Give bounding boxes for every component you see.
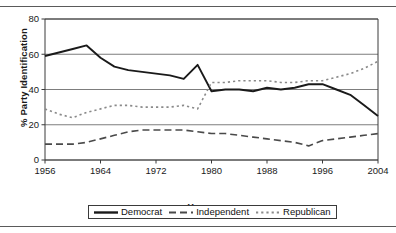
legend-item-democrat[interactable]: Democrat	[94, 207, 162, 217]
svg-text:1956: 1956	[34, 165, 55, 176]
legend-label-independent: Independent	[196, 207, 249, 217]
svg-text:1972: 1972	[145, 165, 166, 176]
legend-swatch-republican	[256, 208, 280, 217]
legend-label-republican: Republican	[283, 207, 331, 217]
figure: % Party Identification 02040608019561964…	[0, 0, 396, 233]
series-line-independent	[45, 130, 378, 146]
svg-text:0: 0	[34, 154, 39, 165]
series-line-democrat	[45, 45, 378, 116]
y-axis-title: % Party Identification	[18, 8, 29, 148]
svg-text:20: 20	[28, 119, 39, 130]
legend-item-independent[interactable]: Independent	[169, 207, 249, 217]
svg-text:60: 60	[28, 49, 39, 60]
top-divider-rule	[0, 6, 396, 7]
chart-legend: Democrat Independent Republican	[88, 205, 337, 219]
bottom-divider-rule	[0, 226, 396, 227]
chart-area: % Party Identification 02040608019561964…	[0, 10, 396, 195]
line-chart-plot: 0204060801956196419721980198819962004	[0, 10, 396, 195]
svg-text:1964: 1964	[90, 165, 111, 176]
legend-item-republican[interactable]: Republican	[256, 207, 331, 217]
svg-text:1980: 1980	[201, 165, 222, 176]
svg-text:80: 80	[28, 13, 39, 24]
svg-text:1988: 1988	[256, 165, 277, 176]
legend-swatch-democrat	[94, 208, 118, 217]
legend-swatch-independent	[169, 208, 193, 217]
svg-text:1996: 1996	[312, 165, 333, 176]
svg-text:40: 40	[28, 84, 39, 95]
legend-label-democrat: Democrat	[121, 207, 162, 217]
svg-text:2004: 2004	[367, 165, 388, 176]
